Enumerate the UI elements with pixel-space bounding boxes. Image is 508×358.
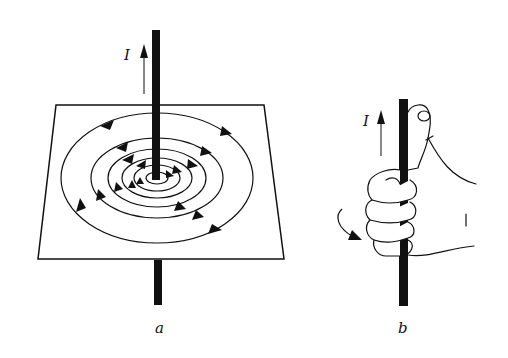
panel-label-a: a <box>155 319 164 337</box>
curl-direction-arrow-icon <box>338 209 362 240</box>
right-hand-icon <box>366 105 476 256</box>
figure-canvas: I <box>0 0 508 358</box>
current-arrow-icon <box>140 44 148 94</box>
current-label-b: I <box>362 112 370 130</box>
current-label-a: I <box>123 46 131 64</box>
panel-b: I b <box>338 99 476 337</box>
wire-lower <box>154 260 162 305</box>
plane <box>38 105 284 259</box>
panel-label-b: b <box>398 319 408 337</box>
current-arrow-icon-b <box>377 110 385 156</box>
panel-a: I <box>38 30 284 337</box>
